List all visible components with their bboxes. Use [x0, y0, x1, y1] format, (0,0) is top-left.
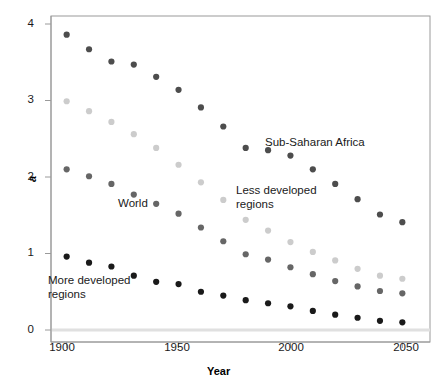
- data-point: [108, 119, 114, 125]
- x-tick-label-2000: 2000: [269, 341, 313, 353]
- data-point: [287, 239, 293, 245]
- data-point: [175, 162, 181, 168]
- data-point: [131, 273, 137, 279]
- y-tick-label-3: 3: [12, 93, 34, 105]
- data-point: [220, 238, 226, 244]
- data-point: [377, 211, 383, 217]
- y-tick-label-4: 4: [12, 17, 34, 29]
- data-point: [399, 276, 405, 282]
- data-point: [153, 279, 159, 285]
- data-point: [153, 145, 159, 151]
- data-point: [108, 58, 114, 64]
- annotation-world: World: [118, 197, 148, 211]
- data-point: [64, 253, 70, 259]
- data-point: [399, 290, 405, 296]
- scatter-chart-figure: 4 3 2 1 0 1900 1950 2000 2050 Year a Sub…: [0, 0, 433, 391]
- data-point: [243, 145, 249, 151]
- data-point: [399, 319, 405, 325]
- data-point: [131, 61, 137, 67]
- plot-canvas: [0, 0, 433, 391]
- data-point: [377, 273, 383, 279]
- x-tick-label-2050: 2050: [384, 341, 428, 353]
- x-tick-label-1900: 1900: [40, 341, 84, 353]
- annotation-less-developed-regions: Less developed regions: [236, 184, 317, 211]
- data-point: [108, 181, 114, 187]
- y-tick-label-0: 0: [12, 323, 34, 335]
- data-point: [86, 260, 92, 266]
- data-point: [86, 46, 92, 52]
- data-point: [265, 300, 271, 306]
- data-point: [354, 283, 360, 289]
- data-point: [131, 131, 137, 137]
- data-point: [287, 264, 293, 270]
- data-point: [243, 297, 249, 303]
- data-point: [64, 166, 70, 172]
- data-point: [175, 281, 181, 287]
- data-point: [86, 173, 92, 179]
- data-point: [64, 98, 70, 104]
- data-point: [377, 288, 383, 294]
- data-point: [198, 104, 204, 110]
- x-axis-title: Year: [207, 365, 230, 377]
- data-point: [354, 196, 360, 202]
- data-point: [332, 312, 338, 318]
- data-point: [108, 263, 114, 269]
- data-point: [64, 32, 70, 38]
- data-point: [198, 179, 204, 185]
- data-point: [243, 217, 249, 223]
- data-point: [287, 303, 293, 309]
- data-point: [243, 251, 249, 257]
- data-point: [198, 224, 204, 230]
- data-point: [332, 257, 338, 263]
- data-point: [377, 318, 383, 324]
- data-point: [310, 271, 316, 277]
- data-point: [287, 152, 293, 158]
- data-point: [198, 289, 204, 295]
- data-point: [153, 74, 159, 80]
- annotation-more-developed-regions: More developed regions: [48, 274, 130, 301]
- data-point: [310, 166, 316, 172]
- data-point: [399, 219, 405, 225]
- data-point: [175, 211, 181, 217]
- data-point: [220, 197, 226, 203]
- data-point: [332, 278, 338, 284]
- y-axis-title: a: [26, 176, 38, 182]
- data-point: [354, 315, 360, 321]
- data-point: [310, 249, 316, 255]
- data-point: [310, 308, 316, 314]
- y-tick-label-1: 1: [12, 246, 34, 258]
- series-less-developed-regions: [64, 98, 406, 282]
- annotation-sub-saharan-africa: Sub-Saharan Africa: [265, 136, 365, 150]
- series-sub-saharan-africa: [64, 32, 406, 226]
- data-point: [86, 108, 92, 114]
- data-point: [354, 266, 360, 272]
- data-point: [220, 123, 226, 129]
- data-point: [265, 257, 271, 263]
- x-tick-label-1950: 1950: [155, 341, 199, 353]
- data-point: [153, 201, 159, 207]
- data-point: [220, 292, 226, 298]
- data-point: [175, 87, 181, 93]
- data-point: [265, 227, 271, 233]
- data-point: [332, 181, 338, 187]
